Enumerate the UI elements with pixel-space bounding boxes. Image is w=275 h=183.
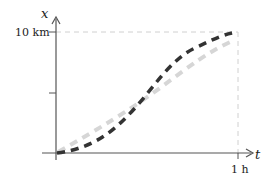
y-top-label: 10 km: [15, 26, 50, 39]
x-right-label: 1 h: [231, 163, 249, 176]
light-curve: [58, 40, 235, 152]
distance-time-diagram: x t 10 km 1 h: [0, 0, 275, 183]
x-axis-label: t: [255, 147, 261, 162]
y-axis-label: x: [41, 6, 49, 21]
